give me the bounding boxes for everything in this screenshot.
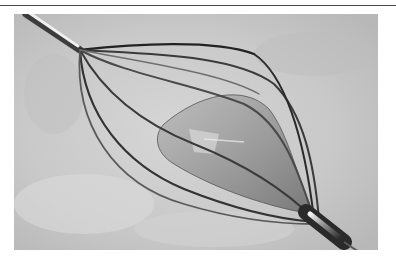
top-rule-divider [0,5,396,6]
device-photograph: Basket catheter device photograph [14,14,378,250]
